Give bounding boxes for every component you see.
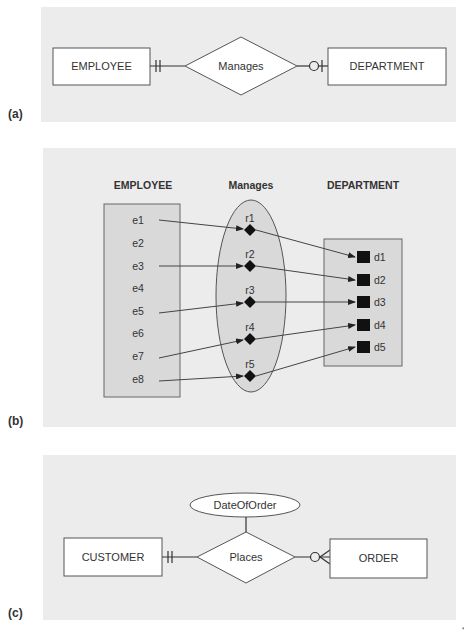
department-instance-label: d1 [374, 251, 386, 263]
relationship-instance-label: r4 [245, 321, 254, 333]
department-instance-label: d3 [374, 296, 386, 308]
department-instance-label: d4 [374, 319, 386, 331]
employee-instance: e1 [132, 214, 144, 226]
header-department: DEPARTMENT [327, 179, 400, 191]
entity-customer-label: CUSTOMER [82, 551, 145, 563]
employee-set-box [104, 204, 180, 397]
department-instance-label: d2 [374, 274, 386, 286]
entity-department-label: DEPARTMENT [350, 60, 425, 72]
employee-instance: e5 [132, 305, 144, 317]
square-icon [357, 341, 370, 353]
panel-a: (a) EMPLOYEE Manages DEPARTMENT [8, 7, 456, 122]
employee-instance: e7 [132, 350, 144, 362]
attribute-dateoforder-label: DateOfOrder [214, 499, 277, 511]
panel-a-label: (a) [8, 107, 23, 121]
employee-instance: e2 [132, 237, 144, 249]
relationship-instance-label: r5 [245, 358, 254, 370]
entity-department[interactable]: DEPARTMENT [328, 48, 446, 85]
relationship-instance-label: r2 [245, 248, 254, 260]
employee-instance: e4 [132, 282, 144, 294]
header-manages: Manages [229, 179, 274, 191]
panel-c-label: (c) [8, 606, 23, 620]
entity-customer[interactable]: CUSTOMER [64, 538, 162, 576]
er-diagram-figure: (a) EMPLOYEE Manages DEPARTMENT [0, 0, 470, 639]
relationship-places-label: Places [229, 551, 263, 563]
square-icon [357, 296, 370, 308]
panel-b: (b) EMPLOYEE Manages DEPARTMENT e1 e2 e3… [8, 148, 456, 428]
employee-instance: e8 [132, 373, 144, 385]
square-icon [357, 251, 370, 263]
square-icon [357, 319, 370, 331]
square-icon [357, 274, 370, 286]
employee-instance: e6 [132, 327, 144, 339]
entity-order[interactable]: ORDER [330, 539, 427, 578]
header-employee: EMPLOYEE [114, 179, 172, 191]
attribute-dateoforder[interactable]: DateOfOrder [190, 493, 300, 517]
panel-b-label: (b) [8, 414, 23, 428]
relationship-manages-label: Manages [218, 60, 264, 72]
relationship-instance-label: r3 [245, 284, 254, 296]
entity-order-label: ORDER [359, 552, 399, 564]
entity-employee-label: EMPLOYEE [71, 60, 132, 72]
entity-employee[interactable]: EMPLOYEE [53, 48, 150, 85]
employee-instance: e3 [132, 260, 144, 272]
relationship-instance-label: r1 [245, 212, 254, 224]
department-instance-label: d5 [374, 341, 386, 353]
panel-c: (c) DateOfOrder CUSTOMER Places [8, 455, 456, 620]
footer-mark: ‘ [462, 625, 464, 637]
